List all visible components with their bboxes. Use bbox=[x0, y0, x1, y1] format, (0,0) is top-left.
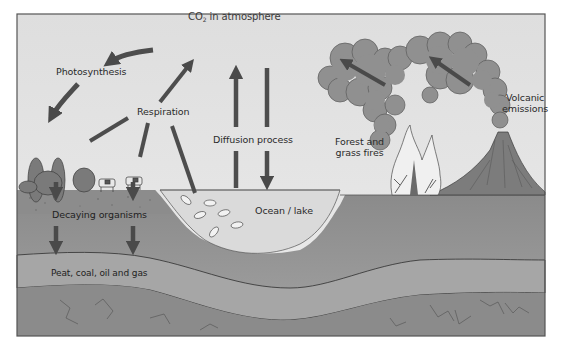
carbon-cycle-diagram bbox=[0, 0, 563, 351]
label-volcanic-emissions: Volcanic emissions bbox=[502, 92, 548, 114]
label-fossil-fuels: Peat, coal, oil and gas bbox=[51, 268, 147, 278]
label-decaying-organisms: Decaying organisms bbox=[52, 209, 147, 220]
label-ocean-lake: Ocean / lake bbox=[255, 205, 313, 216]
label-diffusion-process: Diffusion process bbox=[213, 134, 293, 145]
label-forest-grass-fires: Forest and grass fires bbox=[335, 136, 384, 158]
label-respiration: Respiration bbox=[137, 106, 189, 117]
label-photosynthesis: Photosynthesis bbox=[56, 66, 126, 77]
label-co2-atmosphere: CO2 in atmosphere bbox=[188, 11, 280, 23]
